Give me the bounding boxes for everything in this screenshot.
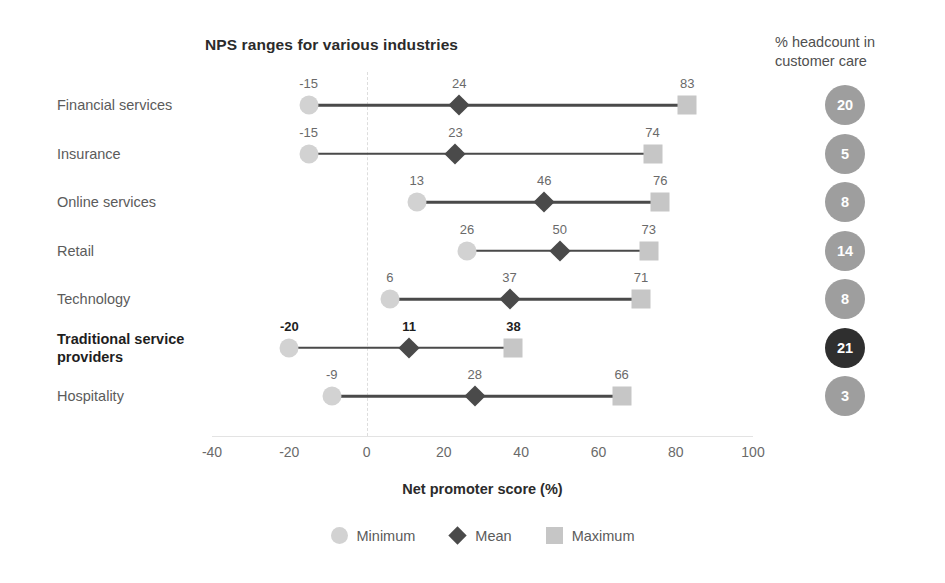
chart-title: NPS ranges for various industries bbox=[205, 36, 458, 54]
diamond-icon bbox=[449, 526, 467, 544]
mean-value-label: 24 bbox=[452, 76, 466, 91]
minimum-marker[interactable] bbox=[458, 241, 477, 260]
category-label-5: Traditional service providers bbox=[57, 330, 227, 366]
x-axis-line bbox=[212, 436, 753, 437]
x-tick-label-5: 60 bbox=[591, 444, 607, 460]
x-tick-label-2: 0 bbox=[363, 444, 371, 460]
minimum-value-label: -15 bbox=[299, 76, 318, 91]
category-label-6: Hospitality bbox=[57, 387, 227, 405]
maximum-marker[interactable] bbox=[651, 193, 670, 212]
minimum-marker[interactable] bbox=[380, 290, 399, 309]
range-connector-line bbox=[309, 152, 653, 155]
headcount-bubble[interactable]: 21 bbox=[825, 328, 865, 368]
minimum-value-label: 6 bbox=[386, 270, 393, 285]
x-tick-label-0: -40 bbox=[202, 444, 222, 460]
category-label-0: Financial services bbox=[57, 96, 227, 114]
minimum-value-label: -9 bbox=[326, 367, 338, 382]
range-connector-line bbox=[309, 104, 688, 107]
maximum-value-label: 66 bbox=[614, 367, 628, 382]
maximum-marker[interactable] bbox=[504, 338, 523, 357]
minimum-marker[interactable] bbox=[299, 96, 318, 115]
mean-value-label: 37 bbox=[502, 270, 516, 285]
minimum-marker[interactable] bbox=[407, 193, 426, 212]
maximum-value-label: 83 bbox=[680, 76, 694, 91]
minimum-value-label: -15 bbox=[299, 125, 318, 140]
headcount-bubble[interactable]: 5 bbox=[825, 134, 865, 174]
x-tick-label-3: 20 bbox=[436, 444, 452, 460]
category-label-4: Technology bbox=[57, 290, 227, 308]
minimum-marker[interactable] bbox=[299, 144, 318, 163]
plot-area bbox=[212, 72, 753, 436]
headcount-bubble[interactable]: 3 bbox=[825, 376, 865, 416]
headcount-bubble[interactable]: 20 bbox=[825, 85, 865, 125]
maximum-value-label: 38 bbox=[506, 319, 520, 334]
legend-label: Mean bbox=[475, 528, 511, 544]
minimum-value-label: 26 bbox=[460, 222, 474, 237]
maximum-marker[interactable] bbox=[643, 144, 662, 163]
minimum-marker[interactable] bbox=[280, 338, 299, 357]
mean-value-label: 23 bbox=[448, 125, 462, 140]
legend-item-mean[interactable]: Mean bbox=[449, 527, 511, 544]
maximum-value-label: 73 bbox=[641, 222, 655, 237]
headcount-bubble[interactable]: 8 bbox=[825, 182, 865, 222]
maximum-marker[interactable] bbox=[631, 290, 650, 309]
x-axis-title: Net promoter score (%) bbox=[212, 481, 753, 497]
square-icon bbox=[546, 527, 563, 544]
maximum-value-label: 71 bbox=[634, 270, 648, 285]
legend-item-minimum[interactable]: Minimum bbox=[331, 527, 416, 544]
minimum-marker[interactable] bbox=[322, 387, 341, 406]
maximum-marker[interactable] bbox=[612, 387, 631, 406]
category-label-1: Insurance bbox=[57, 145, 227, 163]
maximum-marker[interactable] bbox=[639, 241, 658, 260]
mean-value-label: 28 bbox=[468, 367, 482, 382]
x-tick-label-7: 100 bbox=[741, 444, 764, 460]
legend-label: Maximum bbox=[572, 528, 635, 544]
mean-value-label: 50 bbox=[553, 222, 567, 237]
maximum-marker[interactable] bbox=[678, 96, 697, 115]
nps-range-chart: NPS ranges for various industries % head… bbox=[0, 0, 945, 583]
maximum-value-label: 76 bbox=[653, 173, 667, 188]
headcount-bubble[interactable]: 14 bbox=[825, 231, 865, 271]
zero-gridline bbox=[367, 72, 368, 436]
x-tick-label-4: 40 bbox=[513, 444, 529, 460]
headcount-column-title: % headcount in customer care bbox=[775, 33, 925, 71]
mean-value-label: 11 bbox=[402, 319, 416, 334]
legend-item-maximum[interactable]: Maximum bbox=[546, 527, 635, 544]
headcount-bubble[interactable]: 8 bbox=[825, 279, 865, 319]
category-label-2: Online services bbox=[57, 193, 227, 211]
legend-label: Minimum bbox=[357, 528, 416, 544]
circle-icon bbox=[331, 527, 348, 544]
x-tick-label-1: -20 bbox=[279, 444, 299, 460]
maximum-value-label: 74 bbox=[645, 125, 659, 140]
minimum-value-label: 13 bbox=[410, 173, 424, 188]
minimum-value-label: -20 bbox=[280, 319, 299, 334]
category-label-3: Retail bbox=[57, 242, 227, 260]
mean-value-label: 46 bbox=[537, 173, 551, 188]
chart-legend: MinimumMeanMaximum bbox=[212, 527, 753, 544]
x-tick-label-6: 80 bbox=[668, 444, 684, 460]
